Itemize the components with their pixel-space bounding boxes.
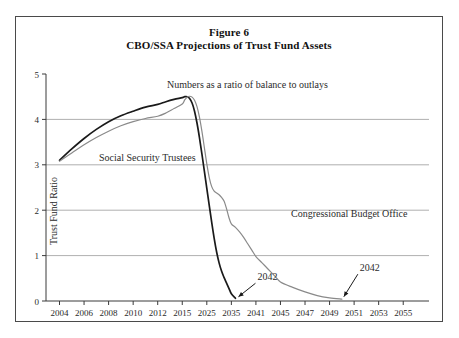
- annotation-ratio-note: Numbers as a ratio of balance to outlays: [167, 79, 328, 90]
- svg-text:2047: 2047: [296, 308, 315, 318]
- annotation-cbo-year: 2042: [360, 262, 380, 273]
- svg-text:5: 5: [35, 70, 40, 80]
- svg-text:2049: 2049: [321, 308, 340, 318]
- svg-text:2006: 2006: [75, 308, 94, 318]
- figure-frame: Figure 6 CBO/SSA Projections of Trust Fu…: [15, 16, 443, 322]
- svg-text:2015: 2015: [173, 308, 192, 318]
- svg-text:2041: 2041: [247, 308, 265, 318]
- annotation-trustees-label: Social Security Trustees: [99, 152, 196, 163]
- svg-text:0: 0: [35, 297, 40, 307]
- svg-text:2055: 2055: [394, 308, 413, 318]
- svg-text:1: 1: [35, 251, 40, 261]
- svg-text:2053: 2053: [370, 308, 389, 318]
- svg-text:2004: 2004: [51, 308, 70, 318]
- svg-text:2051: 2051: [345, 308, 363, 318]
- annotation-cbo-label: Congressional Budget Office: [291, 208, 408, 219]
- annotation-arrows: [238, 274, 357, 297]
- x-axis-ticks: 2004200620082010201220152025203520412045…: [51, 301, 413, 318]
- svg-text:2035: 2035: [222, 308, 241, 318]
- svg-text:2: 2: [35, 206, 40, 216]
- svg-text:3: 3: [35, 160, 40, 170]
- svg-text:4: 4: [35, 115, 40, 125]
- trust-fund-chart: 012345 200420062008201020122015202520352…: [16, 17, 442, 321]
- gridlines: [46, 119, 429, 255]
- series-lines: [60, 96, 342, 299]
- svg-text:2010: 2010: [124, 308, 143, 318]
- svg-text:2008: 2008: [100, 308, 119, 318]
- svg-text:2025: 2025: [198, 308, 217, 318]
- y-axis-ticks: 012345: [35, 70, 47, 307]
- y-axis-title: Trust Fund Ratio: [48, 177, 59, 245]
- svg-text:2045: 2045: [271, 308, 290, 318]
- annotation-trustees-year: 2042: [257, 271, 277, 282]
- svg-text:2012: 2012: [149, 308, 167, 318]
